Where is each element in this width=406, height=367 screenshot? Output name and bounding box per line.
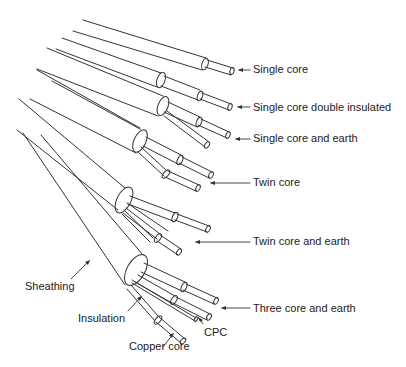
cable-types-diagram: Single core Single core double insulated… <box>0 0 406 367</box>
label-single-core-double-insulated: Single core double insulated <box>253 101 391 114</box>
label-single-core: Single core <box>253 63 308 76</box>
label-copper-core: Copper core <box>129 340 190 353</box>
cable-single-core <box>73 20 235 75</box>
label-twin-core: Twin core <box>253 176 300 189</box>
label-twin-core-and-earth: Twin core and earth <box>253 235 350 248</box>
cable-single-core-double-insulated <box>56 38 233 111</box>
label-three-core-and-earth: Three core and earth <box>253 302 356 315</box>
label-single-core-and-earth: Single core and earth <box>253 132 358 145</box>
label-insulation: Insulation <box>78 312 125 325</box>
label-sheathing: Sheathing <box>25 280 75 293</box>
label-cpc: CPC <box>204 326 227 339</box>
